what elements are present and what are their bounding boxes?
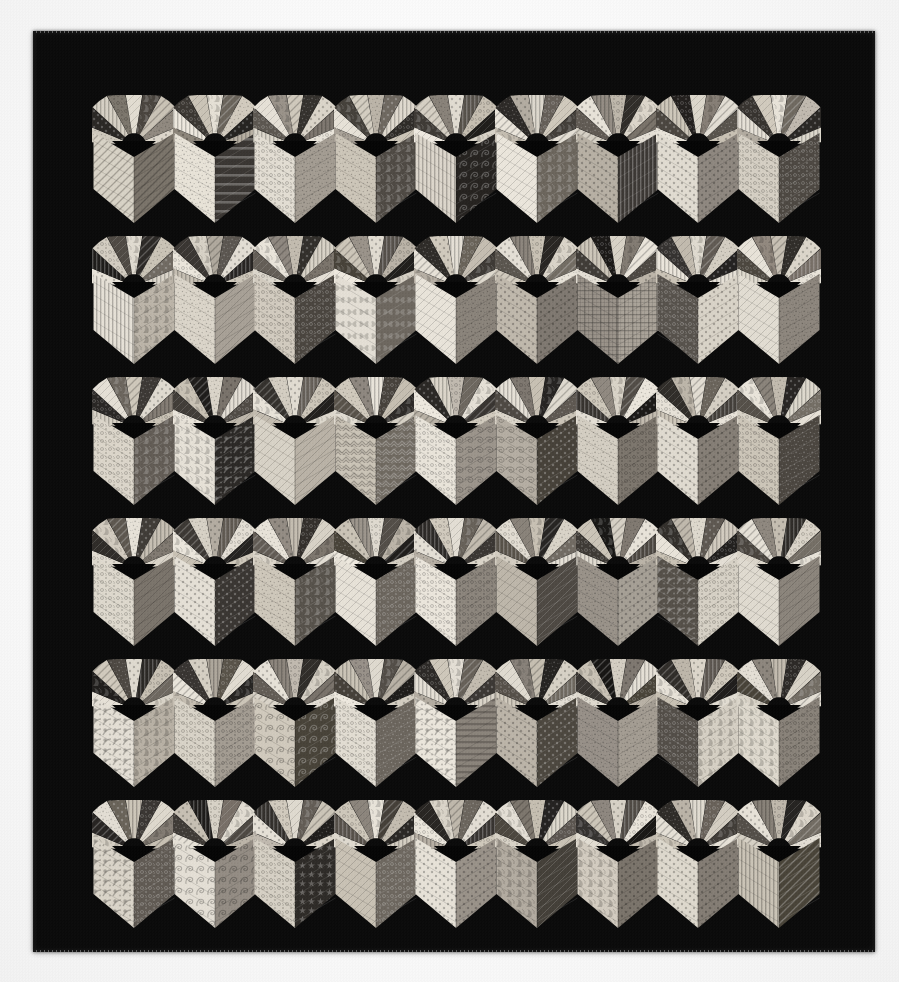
- fan-wedges: [334, 377, 418, 426]
- quilt-block-shape: [414, 798, 498, 930]
- fan-wedges: [173, 659, 257, 708]
- quilt-block-shape: [495, 234, 579, 366]
- fan-wedges: [495, 800, 579, 849]
- quilt-block-shape: [737, 657, 821, 789]
- fan-wedges: [495, 518, 579, 567]
- quilt-block-shape: [173, 93, 257, 225]
- quilt-block-shape: [253, 93, 337, 225]
- quilt-block: [253, 375, 337, 507]
- quilt-block: [334, 516, 418, 648]
- fan-wedges: [92, 377, 176, 426]
- fan-wedges: [92, 800, 176, 849]
- fan-wedges: [656, 518, 740, 567]
- quilt-block: [656, 516, 740, 648]
- quilt-block-shape: [414, 657, 498, 789]
- quilt-block-shape: [173, 234, 257, 366]
- fan-wedges: [737, 659, 821, 708]
- quilt-block: [656, 375, 740, 507]
- quilt-block-shape: [495, 93, 579, 225]
- quilt-block-shape: [495, 798, 579, 930]
- quilt-block: [92, 516, 176, 648]
- fan-wedges: [334, 236, 418, 285]
- fan-wedges: [92, 659, 176, 708]
- fan-wedges: [737, 95, 821, 144]
- fan-wedges: [92, 518, 176, 567]
- quilt-block: [334, 93, 418, 225]
- fan-wedges: [656, 95, 740, 144]
- quilt-block-shape: [334, 93, 418, 225]
- quilt-block-shape: [737, 798, 821, 930]
- quilt-block-shape: [656, 234, 740, 366]
- fan-wedges: [737, 377, 821, 426]
- quilt-block-shape: [576, 516, 660, 648]
- quilt-block-shape: [414, 93, 498, 225]
- fan-wedges: [334, 95, 418, 144]
- fan-wedges: [737, 236, 821, 285]
- fan-wedges: [656, 800, 740, 849]
- quilt-block: [737, 516, 821, 648]
- quilt-block: [414, 375, 498, 507]
- quilt-block: [576, 516, 660, 648]
- quilt-block: [576, 657, 660, 789]
- fan-wedges: [253, 236, 337, 285]
- fan-wedges: [253, 377, 337, 426]
- fan-wedges: [414, 236, 498, 285]
- quilt-block-shape: [173, 516, 257, 648]
- quilt-block: [253, 798, 337, 930]
- fan-wedges: [414, 377, 498, 426]
- quilt-block-shape: [253, 234, 337, 366]
- quilt-block-shape: [92, 798, 176, 930]
- quilt-block-shape: [334, 234, 418, 366]
- quilt-block-shape: [656, 657, 740, 789]
- quilt-block-shape: [173, 798, 257, 930]
- quilt-block: [414, 798, 498, 930]
- quilt-block: [656, 234, 740, 366]
- fan-wedges: [334, 800, 418, 849]
- quilt-block: [737, 798, 821, 930]
- quilt-block-shape: [334, 798, 418, 930]
- quilt-block-shape: [576, 93, 660, 225]
- quilt-block: [576, 375, 660, 507]
- quilt-block-shape: [737, 234, 821, 366]
- quilt-block-shape: [173, 657, 257, 789]
- fan-wedges: [173, 800, 257, 849]
- fan-wedges: [334, 518, 418, 567]
- quilt-block-shape: [656, 798, 740, 930]
- quilt-block: [334, 657, 418, 789]
- quilt-block-shape: [173, 375, 257, 507]
- fan-wedges: [414, 659, 498, 708]
- quilt-block: [92, 93, 176, 225]
- quilt-block-shape: [414, 516, 498, 648]
- quilt-block: [737, 657, 821, 789]
- quilt-block: [414, 516, 498, 648]
- quilt-block: [656, 93, 740, 225]
- quilt-block-shape: [576, 657, 660, 789]
- quilt-block-shape: [495, 657, 579, 789]
- quilt-block-shape: [737, 93, 821, 225]
- fan-wedges: [253, 95, 337, 144]
- fan-wedges: [576, 800, 660, 849]
- fan-wedges: [253, 518, 337, 567]
- fan-wedges: [92, 236, 176, 285]
- quilt-block-shape: [334, 657, 418, 789]
- quilt-block: [414, 657, 498, 789]
- quilt-block-shape: [92, 93, 176, 225]
- quilt-block-shape: [253, 657, 337, 789]
- quilt-block: [173, 93, 257, 225]
- quilt-block-shape: [576, 375, 660, 507]
- quilt-block: [576, 798, 660, 930]
- fan-wedges: [173, 236, 257, 285]
- quilt-block: [495, 657, 579, 789]
- quilt-block-shape: [92, 234, 176, 366]
- fan-wedges: [495, 377, 579, 426]
- quilt-block: [495, 93, 579, 225]
- quilt-block: [737, 234, 821, 366]
- quilt-block-shape: [656, 516, 740, 648]
- fan-wedges: [576, 377, 660, 426]
- fan-wedges: [737, 800, 821, 849]
- quilt-block: [495, 234, 579, 366]
- quilt-block-shape: [92, 375, 176, 507]
- fan-wedges: [576, 95, 660, 144]
- fan-wedges: [173, 95, 257, 144]
- quilt-block: [495, 375, 579, 507]
